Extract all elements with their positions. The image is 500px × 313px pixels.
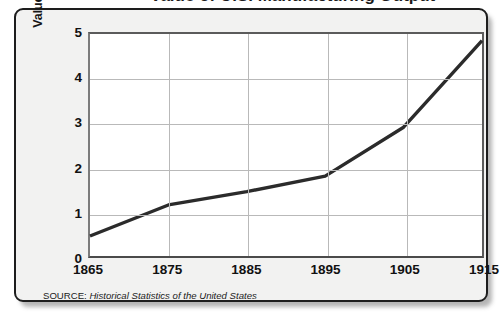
plot-inner xyxy=(90,34,482,256)
x-tick-label: 1895 xyxy=(296,262,356,277)
source-title: Historical Statistics of the United Stat… xyxy=(89,290,256,301)
y-tick-label: 4 xyxy=(56,70,82,85)
horizontal-gridline xyxy=(90,215,482,216)
vertical-gridline xyxy=(169,34,170,256)
vertical-gridline xyxy=(328,34,329,256)
chart-title-text: Value of U.S. Manufacturing Output xyxy=(150,0,435,6)
x-tick-label: 1885 xyxy=(216,262,276,277)
x-tick-label: 1915 xyxy=(454,262,500,277)
chart-panel: Value (in billions of dollars) 012345 18… xyxy=(14,8,488,302)
data-series-line xyxy=(90,34,482,256)
horizontal-gridline xyxy=(90,170,482,171)
y-tick-label: 5 xyxy=(56,25,82,40)
y-axis-title: Value (in billions of dollars) xyxy=(28,0,48,58)
vertical-gridline xyxy=(407,34,408,256)
y-axis-tick-labels: 012345 xyxy=(54,32,82,258)
y-tick-label: 2 xyxy=(56,160,82,175)
source-label: SOURCE: xyxy=(43,290,87,301)
horizontal-gridline xyxy=(90,79,482,80)
horizontal-gridline xyxy=(90,124,482,125)
x-tick-label: 1865 xyxy=(58,262,118,277)
x-tick-label: 1875 xyxy=(137,262,197,277)
source-note: SOURCE: Historical Statistics of the Uni… xyxy=(43,290,257,301)
chart-title-cropped: Value of U.S. Manufacturing Output xyxy=(0,0,500,8)
x-tick-label: 1905 xyxy=(375,262,435,277)
plot-area xyxy=(88,32,484,258)
y-tick-label: 3 xyxy=(56,115,82,130)
figure-container: Value of U.S. Manufacturing Output Value… xyxy=(0,0,500,313)
y-tick-label: 1 xyxy=(56,205,82,220)
x-axis-tick-labels: 186518751885189519051915 xyxy=(88,262,484,282)
vertical-gridline xyxy=(248,34,249,256)
series-polyline xyxy=(90,41,482,236)
